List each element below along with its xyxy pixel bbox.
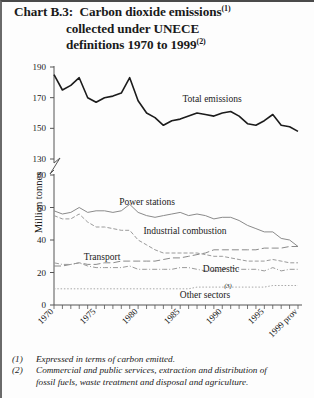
x-tick-label: 1975 <box>78 306 98 326</box>
x-tick-label: 1990 <box>204 306 224 326</box>
y-tick-label: 20 <box>37 268 47 278</box>
series-label-transport: Transport <box>84 252 121 262</box>
x-axis-ticks: 1970197519801985199019951999 prov <box>36 306 300 339</box>
x-tick-label: 1985 <box>162 306 182 326</box>
footnote-1-text: Expressed in terms of carbon emitted. <box>36 354 175 364</box>
chart-frame: Chart B.3: Carbon dioxide emissions(1) c… <box>0 0 314 398</box>
y-tick-label: 40 <box>37 235 47 245</box>
footnote-1-number: (1) <box>12 354 36 365</box>
series-line-other-sectors <box>54 286 298 289</box>
x-tick-label: 1970 <box>36 306 56 326</box>
series-line-total-emissions <box>54 75 298 132</box>
footnote-2-number: (2) <box>12 365 36 388</box>
series-line-domestic <box>54 263 298 271</box>
y-axis-ticks-upper: 190170150130 <box>33 62 55 164</box>
chart-plot-area: 190170150130 806040200 19701975198019851… <box>2 2 314 352</box>
y-tick-label: 170 <box>33 93 47 103</box>
footnote-1: (1) Expressed in terms of carbon emitted… <box>12 354 310 365</box>
series-label-industrial-combustion: Industrial combustion <box>143 226 226 236</box>
y-tick-label: 130 <box>33 154 47 164</box>
series-label-other-sectors: Other sectors <box>180 290 231 300</box>
footnotes: (1) Expressed in terms of carbon emitted… <box>12 354 310 388</box>
y-tick-label: 60 <box>37 203 47 213</box>
series-label-total: Total emissions <box>182 94 242 104</box>
y-tick-label: 190 <box>33 62 47 72</box>
footnote-2-text: Commercial and public services, extracti… <box>36 365 267 375</box>
y-tick-label: 80 <box>37 170 47 180</box>
footnote-ref-3: (3) <box>224 282 232 290</box>
footnote-2: (2) Commercial and public services, extr… <box>12 365 310 388</box>
series-label-power-stations: Power stations <box>119 197 175 207</box>
x-tick-label: 1999 prov <box>266 306 299 339</box>
series-label-domestic: Domestic <box>203 264 239 274</box>
x-tick-label: 1980 <box>120 306 140 326</box>
x-tick-label: 1995 <box>246 306 266 326</box>
y-axis-ticks-lower: 806040200 <box>37 170 54 310</box>
footnote-2-text-cont: fossil fuels, waste treatment and dispos… <box>36 377 310 388</box>
axis-break-marker <box>50 158 60 174</box>
y-tick-label: 150 <box>33 123 47 133</box>
